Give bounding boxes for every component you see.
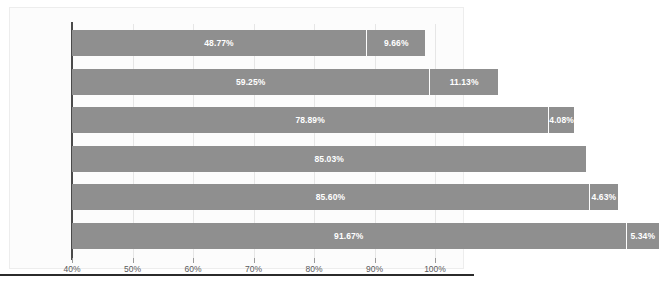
stacked-bar[interactable]: 85.03% — [72, 146, 344, 172]
bar-value-label: 48.77% — [204, 38, 233, 48]
bar-row: LINE 359.25%11.13% — [72, 63, 435, 101]
x-tick-label: 50% — [103, 264, 163, 274]
x-tick-label: 40% — [42, 264, 102, 274]
bar-value-label: 5.34% — [630, 231, 655, 241]
bar-segment-2[interactable]: 11.13% — [430, 69, 497, 95]
tickmark-70 — [254, 258, 255, 263]
stacked-bar[interactable]: 85.60%4.63% — [72, 184, 376, 210]
bar-segment-2[interactable]: 9.66% — [367, 30, 425, 56]
x-tick-label: 60% — [163, 264, 223, 274]
stacked-bar[interactable]: 78.89%4.08% — [72, 107, 332, 133]
bar-value-label: 59.25% — [236, 77, 265, 87]
bar-value-label: 85.03% — [314, 154, 343, 164]
plot-area: LINE 148.77%9.66%LINE 359.25%11.13%LINE … — [72, 24, 435, 258]
bar-segment-1[interactable]: 59.25% — [72, 69, 430, 95]
bar-segment-1[interactable]: 85.03% — [72, 146, 586, 172]
bar-segment-1[interactable]: 91.67% — [72, 223, 627, 249]
tickmark-80 — [314, 258, 315, 263]
tickmark-90 — [375, 258, 376, 263]
bar-value-label: 4.08% — [549, 115, 574, 125]
tickmark-40 — [72, 258, 73, 263]
tickmark-100 — [435, 258, 436, 263]
bar-row: COCOA91.67%5.34% — [72, 217, 435, 255]
bar-value-label: 9.66% — [384, 38, 409, 48]
x-tick-label: 80% — [284, 264, 344, 274]
bar-segment-1[interactable]: 78.89% — [72, 107, 549, 133]
stacked-bar[interactable]: 59.25%11.13% — [72, 69, 256, 95]
bar-row: LINE 478.89%4.08% — [72, 101, 435, 139]
tickmark-50 — [133, 258, 134, 263]
x-tick-label: 100% — [405, 264, 465, 274]
stacked-bar[interactable]: 48.77%9.66% — [72, 30, 184, 56]
bar-row: LINE 148.77%9.66% — [72, 24, 435, 62]
bar-value-label: 78.89% — [295, 115, 324, 125]
tickmark-60 — [193, 258, 194, 263]
bar-value-label: 85.60% — [316, 192, 345, 202]
x-tick-label: 90% — [345, 264, 405, 274]
bar-segment-2[interactable]: 4.63% — [590, 184, 618, 210]
bar-row: PACKING85.60%4.63% — [72, 178, 435, 216]
bar-row: LINE 285.03% — [72, 140, 435, 178]
bar-value-label: 91.67% — [334, 231, 363, 241]
bar-value-label: 11.13% — [450, 77, 479, 87]
bar-segment-1[interactable]: 85.60% — [72, 184, 590, 210]
bottom-rule — [0, 274, 474, 276]
bar-value-label: 4.63% — [592, 192, 617, 202]
x-tick-label: 70% — [224, 264, 284, 274]
bar-segment-1[interactable]: 48.77% — [72, 30, 367, 56]
bar-segment-2[interactable]: 4.08% — [549, 107, 574, 133]
stacked-bar[interactable]: 91.67%5.34% — [72, 223, 417, 249]
bar-segment-2[interactable]: 5.34% — [627, 223, 659, 249]
